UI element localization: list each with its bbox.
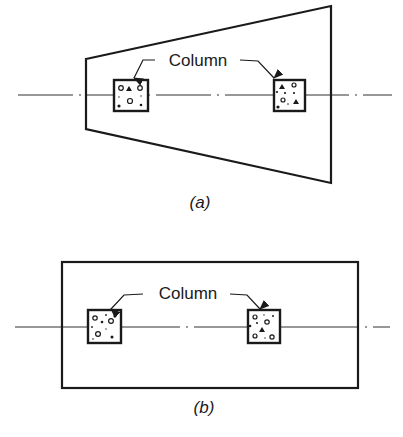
figure-a: Column (a) (18, 6, 392, 212)
column-callout-label-a: Column (169, 51, 228, 70)
caption-b: (b) (194, 398, 215, 417)
leader-line-right-a (240, 60, 274, 78)
leader-line-left-a (134, 60, 155, 78)
column-right-b (248, 310, 280, 343)
caption-a: (a) (190, 193, 211, 212)
leader-line-left-b (111, 294, 143, 309)
column-left-a (114, 80, 148, 111)
leader-line-right-b (230, 294, 260, 309)
combined-footing-diagram: Column (a) (0, 0, 403, 437)
column-right-a (274, 80, 305, 111)
figure-b: Column (b) (15, 262, 390, 417)
column-left-b (88, 310, 121, 343)
column-callout-label-b: Column (159, 284, 218, 303)
